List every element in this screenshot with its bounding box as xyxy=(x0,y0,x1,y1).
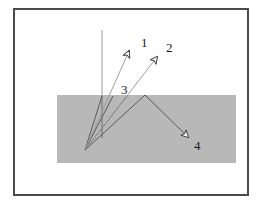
ray-4-label: 4 xyxy=(194,139,201,152)
diagram-canvas xyxy=(0,0,261,207)
gray-medium-slab xyxy=(57,95,236,163)
ray-diagram-figure: 1 2 3 4 xyxy=(0,0,261,207)
ray-1-label: 1 xyxy=(141,36,148,49)
ray-3-label: 3 xyxy=(121,83,128,96)
ray-2-label: 2 xyxy=(166,41,173,54)
